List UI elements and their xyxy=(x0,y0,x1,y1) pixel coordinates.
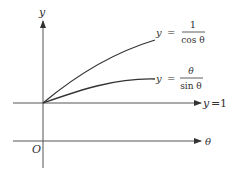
theta-over-sine-curve xyxy=(43,79,155,103)
svg-text:=: = xyxy=(211,97,220,110)
svg-text:sin θ: sin θ xyxy=(180,81,202,91)
svg-text:θ: θ xyxy=(188,66,194,76)
svg-text:=: = xyxy=(167,27,175,38)
origin-label: O xyxy=(32,143,41,156)
svg-text:cos θ: cos θ xyxy=(181,35,204,45)
diagram-canvas: y y = 1 θ O y = 1 cos θ y = θ sin θ xyxy=(0,0,236,173)
svg-text:1: 1 xyxy=(220,97,227,110)
theta-over-sine-label: y = θ sin θ xyxy=(155,66,203,91)
svg-text:y: y xyxy=(155,27,162,38)
secant-curve xyxy=(43,40,155,103)
svg-text:y: y xyxy=(155,73,162,84)
svg-text:=: = xyxy=(167,73,175,84)
svg-text:y: y xyxy=(202,97,210,110)
y-axis-label: y xyxy=(38,6,46,19)
secant-label: y = 1 cos θ xyxy=(155,19,205,45)
theta-axis-label: θ xyxy=(205,136,211,147)
svg-text:1: 1 xyxy=(190,19,196,30)
y-equals-one-label: y = 1 xyxy=(202,97,227,110)
